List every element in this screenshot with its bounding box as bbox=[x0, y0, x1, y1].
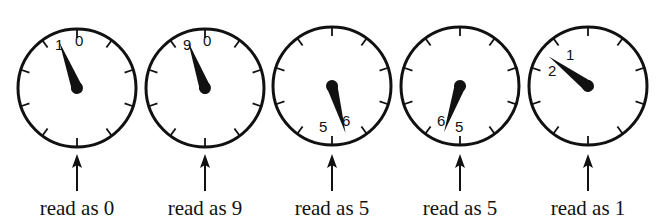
dial-number: 0 bbox=[75, 32, 83, 49]
reading-caption: read as 5 bbox=[267, 196, 397, 221]
up-arrow-icon bbox=[200, 154, 210, 191]
dial-number: 5 bbox=[319, 118, 327, 135]
up-arrow-icon bbox=[455, 154, 465, 191]
up-arrow-icon bbox=[583, 154, 593, 191]
dial-3: 56 bbox=[273, 27, 391, 191]
dial-1: 10 bbox=[18, 29, 136, 191]
dial-4: 65 bbox=[401, 27, 519, 191]
dial-number: 1 bbox=[566, 46, 574, 63]
reading-caption: read as 0 bbox=[12, 196, 142, 221]
dial-number: 5 bbox=[455, 118, 463, 135]
dial-number: 0 bbox=[203, 32, 211, 49]
reading-caption: read as 5 bbox=[395, 196, 525, 221]
up-arrow-icon bbox=[327, 154, 337, 191]
dial-5: 12 bbox=[529, 27, 647, 191]
dial-2: 90 bbox=[146, 29, 264, 191]
meter-dials-diagram: 1090566512 bbox=[0, 0, 660, 223]
dial-number: 2 bbox=[548, 62, 556, 79]
dial-number: 6 bbox=[437, 112, 445, 129]
reading-caption: read as 1 bbox=[523, 196, 653, 221]
reading-caption: read as 9 bbox=[140, 196, 270, 221]
up-arrow-icon bbox=[72, 154, 82, 191]
dial-number: 9 bbox=[183, 36, 191, 53]
